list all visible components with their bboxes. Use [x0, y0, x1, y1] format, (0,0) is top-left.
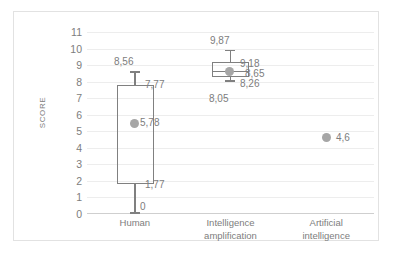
- mean-marker: [322, 133, 331, 142]
- data-label-point: 4,6: [336, 133, 350, 143]
- mean-marker: [130, 119, 139, 128]
- data-label-mean: 5,78: [140, 118, 159, 128]
- y-tick: 1: [58, 192, 82, 203]
- whisker-cap-upper: [130, 71, 140, 73]
- data-label-min: 8,05: [209, 94, 228, 104]
- y-tick: 11: [58, 27, 82, 38]
- x-label-human: Human: [87, 217, 183, 242]
- x-label-intelligence-amplification: Intelligence amplification: [183, 217, 279, 242]
- x-label-line: amplification: [183, 230, 279, 243]
- y-axis-title: SCORE: [38, 78, 47, 148]
- box-iqr: [117, 85, 154, 184]
- whisker-upper: [134, 72, 136, 85]
- chart-frame: SCORE 11 10 9 8 7 6 5 4 3 2 1 0: [13, 11, 379, 241]
- y-tick: 8: [58, 77, 82, 88]
- y-tick: 3: [58, 159, 82, 170]
- x-label-line: intelligence: [278, 230, 374, 243]
- x-label-artificial-intelligence: Artificial intelligence: [278, 217, 374, 242]
- x-axis-category-labels: Human Intelligence amplification Artific…: [87, 217, 374, 242]
- whisker-cap-lower: [225, 80, 235, 82]
- data-label-q1: 1,77: [145, 180, 164, 190]
- data-label-max: 8,56: [114, 57, 133, 67]
- x-label-line: Human: [87, 217, 183, 230]
- y-tick: 5: [58, 126, 82, 137]
- whisker-cap-lower: [130, 212, 140, 214]
- y-tick: 2: [58, 176, 82, 187]
- boxplot-intelligence-amplification: 9,87 9,18 8,65 8,26 8,05: [182, 32, 278, 213]
- y-axis-tick-labels: 11 10 9 8 7 6 5 4 3 2 1 0: [55, 32, 82, 213]
- x-label-line: Intelligence: [183, 217, 279, 230]
- data-label-max: 9,87: [210, 36, 229, 46]
- plot-area: 8,56 7,77 5,78 1,77 0 9,87 9,18 8,65 8,2…: [87, 32, 374, 213]
- y-tick: 4: [58, 143, 82, 154]
- boxplot-human: 8,56 7,77 5,78 1,77 0: [87, 32, 182, 213]
- data-label-q1: 8,26: [240, 79, 259, 89]
- y-tick: 7: [58, 93, 82, 104]
- y-tick: 0: [58, 209, 82, 220]
- whisker-lower: [134, 184, 136, 213]
- whisker-cap-upper: [225, 50, 235, 52]
- y-tick: 10: [58, 44, 82, 55]
- boxplot-artificial-intelligence: 4,6: [278, 32, 374, 213]
- data-label-q3: 7,77: [145, 80, 164, 90]
- x-label-line: Artificial: [278, 217, 374, 230]
- y-tick: 9: [58, 60, 82, 71]
- data-label-min: 0: [140, 202, 146, 212]
- whisker-upper: [230, 51, 232, 63]
- y-tick: 6: [58, 110, 82, 121]
